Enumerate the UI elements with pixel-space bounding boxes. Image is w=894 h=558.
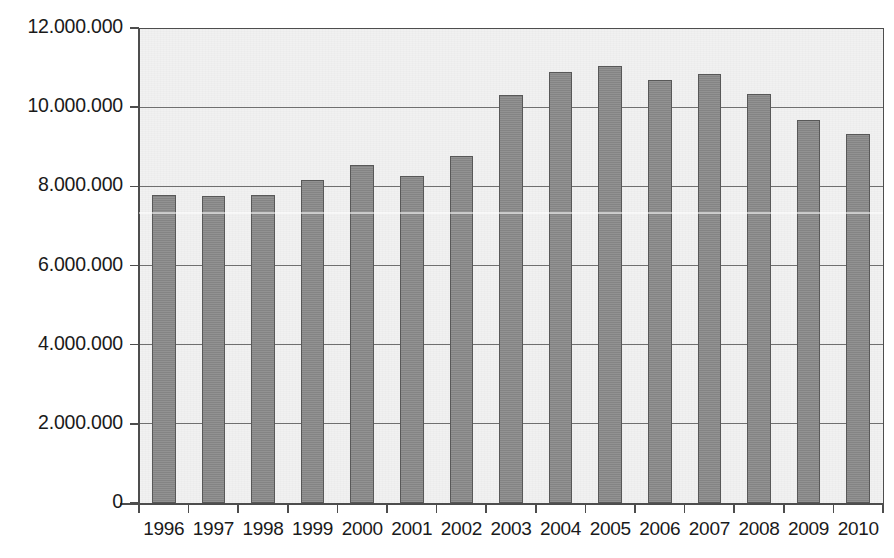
bar-texture	[649, 81, 671, 502]
bar-texture	[699, 75, 721, 502]
bar-2002	[450, 156, 474, 503]
x-axis-label-2001: 2001	[387, 518, 437, 540]
y-axis-label: 10.000.000	[27, 94, 123, 117]
y-axis-label: 12.000.000	[27, 15, 123, 38]
x-tick-7	[485, 504, 487, 513]
bar-2005	[598, 66, 622, 503]
bar-chart: 02.000.0004.000.0006.000.0008.000.00010.…	[0, 0, 894, 558]
bar-2006	[648, 80, 672, 503]
y-axis-label: 4.000.000	[38, 332, 123, 355]
x-axis-label-1998: 1998	[238, 518, 288, 540]
x-axis-label-2003: 2003	[486, 518, 536, 540]
x-axis-label-2005: 2005	[585, 518, 635, 540]
bar-texture	[252, 196, 274, 502]
x-tick-2	[237, 504, 239, 513]
x-axis-label-2008: 2008	[734, 518, 784, 540]
y-axis-label: 2.000.000	[38, 411, 123, 434]
bar-texture	[599, 67, 621, 502]
x-tick-8	[535, 504, 537, 513]
x-tick-3	[287, 504, 289, 513]
x-tick-9	[585, 504, 587, 513]
y-axis-label: 8.000.000	[38, 173, 123, 196]
bar-texture	[500, 96, 522, 503]
x-axis-label-2002: 2002	[437, 518, 487, 540]
bar-2009	[797, 120, 821, 503]
y-tick-5	[130, 106, 139, 108]
x-axis-line	[120, 503, 883, 505]
y-axis-label: 0	[112, 490, 123, 513]
x-axis-label-2000: 2000	[337, 518, 387, 540]
x-tick-13	[783, 504, 785, 513]
bar-2008	[747, 94, 771, 503]
y-tick-1	[130, 423, 139, 425]
bar-1997	[202, 196, 226, 503]
x-tick-5	[386, 504, 388, 513]
x-axis-label-2007: 2007	[685, 518, 735, 540]
x-tick-1	[188, 504, 190, 513]
x-tick-15	[882, 504, 884, 513]
bar-texture	[798, 121, 820, 502]
bar-2003	[499, 95, 523, 504]
x-axis-label-2006: 2006	[635, 518, 685, 540]
bar-texture	[748, 95, 770, 502]
x-tick-11	[684, 504, 686, 513]
bar-1998	[251, 195, 275, 503]
bar-texture	[550, 73, 572, 502]
x-axis-label-2009: 2009	[784, 518, 834, 540]
y-tick-2	[130, 344, 139, 346]
bar-2007	[698, 74, 722, 503]
bar-texture	[451, 157, 473, 502]
bar-2001	[400, 176, 424, 503]
bar-texture	[203, 197, 225, 502]
bar-texture	[401, 177, 423, 502]
y-axis-label: 6.000.000	[38, 253, 123, 276]
x-tick-6	[436, 504, 438, 513]
bar-texture	[302, 181, 324, 502]
bar-2000	[350, 165, 374, 503]
x-axis-label-2010: 2010	[833, 518, 883, 540]
x-tick-0	[138, 504, 140, 513]
bar-1996	[152, 195, 176, 503]
x-axis-label-2004: 2004	[536, 518, 586, 540]
y-tick-6	[130, 27, 139, 29]
bar-texture	[847, 135, 869, 502]
x-axis-label-1999: 1999	[288, 518, 338, 540]
x-tick-14	[833, 504, 835, 513]
x-tick-10	[634, 504, 636, 513]
bar-2004	[549, 72, 573, 503]
y-tick-3	[130, 265, 139, 267]
bar-texture	[351, 166, 373, 502]
x-axis-label-1997: 1997	[189, 518, 239, 540]
x-axis-label-1996: 1996	[139, 518, 189, 540]
x-tick-12	[733, 504, 735, 513]
y-tick-4	[130, 186, 139, 188]
x-tick-4	[337, 504, 339, 513]
bar-2010	[846, 134, 870, 503]
bar-texture	[153, 196, 175, 502]
bar-1999	[301, 180, 325, 503]
